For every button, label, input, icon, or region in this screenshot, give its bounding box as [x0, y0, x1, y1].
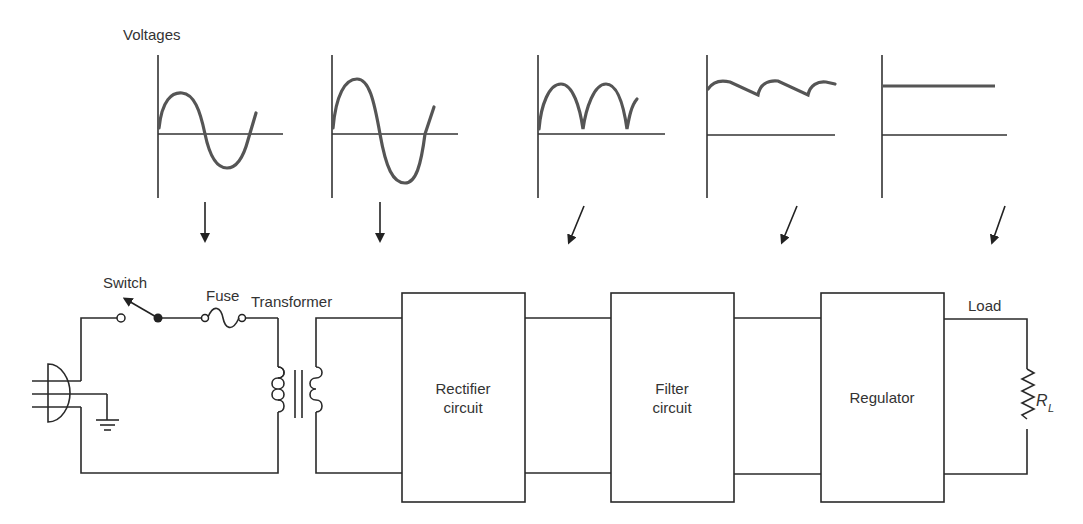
filter-label: Filter	[655, 380, 688, 397]
waveform-rectified	[538, 55, 665, 198]
waveform-regulated	[882, 55, 1007, 198]
rectifier-sublabel: circuit	[443, 399, 483, 416]
signal-arrows	[205, 202, 1005, 240]
arrow-down-left-icon	[570, 206, 584, 240]
waveform-ac-input	[158, 55, 283, 198]
primary-circuit	[81, 318, 278, 473]
voltages-label: Voltages	[123, 26, 181, 43]
transformer-icon	[272, 318, 402, 473]
switch-label: Switch	[103, 274, 147, 291]
load-resistor-label: R	[1036, 392, 1048, 409]
fuse-icon	[202, 308, 246, 327]
waveform-filtered	[707, 55, 835, 198]
switch-icon	[117, 300, 163, 323]
fuse-label: Fuse	[206, 287, 239, 304]
transformer-label: Transformer	[251, 293, 332, 310]
rectifier-label: Rectifier	[435, 380, 490, 397]
filter-block: Filter circuit	[611, 293, 734, 502]
arrow-down-left-icon	[993, 206, 1005, 240]
regulator-label: Regulator	[849, 389, 914, 406]
regulator-block: Regulator	[821, 293, 944, 502]
rectifier-block: Rectifier circuit	[402, 293, 525, 502]
load-label: Load	[968, 297, 1001, 314]
resistor-icon	[1022, 369, 1034, 419]
waveform-transformer-output	[332, 55, 458, 198]
load-circuit	[944, 319, 1034, 474]
load-resistor-subscript: L	[1048, 402, 1054, 414]
power-supply-diagram: Voltages	[0, 0, 1083, 524]
ac-plug-icon	[32, 364, 119, 430]
arrow-down-left-icon	[783, 206, 797, 240]
filter-sublabel: circuit	[652, 399, 692, 416]
